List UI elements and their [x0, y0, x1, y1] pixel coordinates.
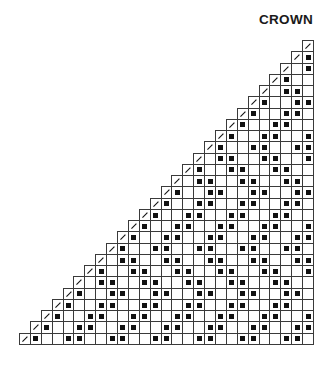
empty-stitch [302, 333, 314, 345]
knitting-chart-grid [19, 40, 313, 344]
chart-title: CROWN [259, 12, 313, 27]
